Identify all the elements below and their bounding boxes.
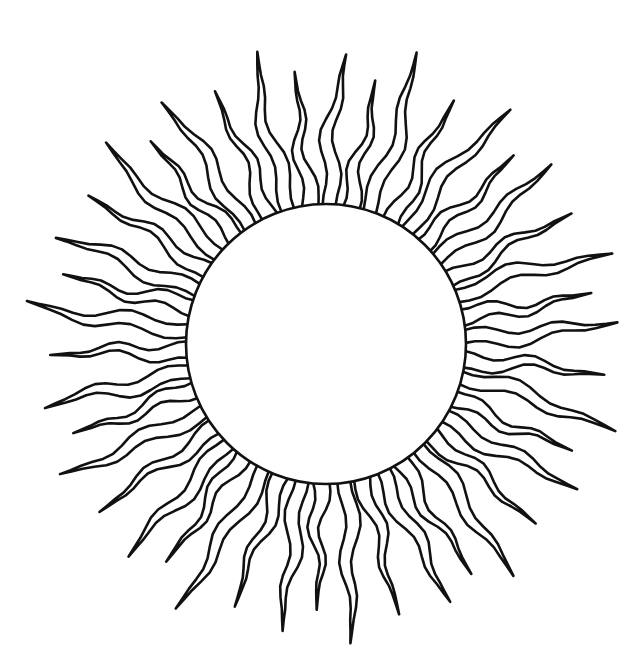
sun-ray — [27, 301, 189, 338]
sun-ray — [462, 351, 604, 375]
sun-ray — [307, 482, 330, 610]
sun-ray-outline — [292, 72, 319, 208]
sun-ray-outline — [280, 479, 309, 631]
sun-drawing — [0, 0, 640, 654]
sun-ray-outline — [462, 351, 604, 375]
sun-ray — [337, 480, 360, 643]
sun-ray-outline — [50, 341, 188, 362]
sun-ray — [280, 479, 309, 631]
sun-disc — [186, 204, 466, 484]
sun-ray — [50, 341, 188, 362]
sun-ray-outline — [464, 322, 618, 348]
sun-ray — [319, 55, 346, 207]
sun-ray — [292, 72, 319, 208]
sun-illustration — [0, 0, 640, 654]
sun-ray-outline — [27, 301, 189, 338]
sun-ray — [464, 322, 618, 348]
sun-ray-outline — [307, 482, 330, 610]
sun-ray-outline — [337, 480, 360, 643]
sun-ray — [56, 238, 201, 297]
sun-ray-outline — [319, 55, 346, 207]
sun-ray-outline — [56, 238, 201, 297]
